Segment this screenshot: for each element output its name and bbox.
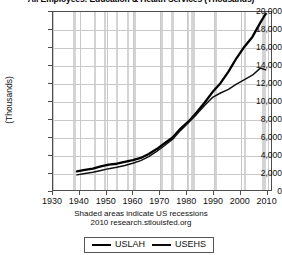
x-tick-mark xyxy=(159,191,160,195)
y-tick-mark xyxy=(48,137,52,138)
y-tick-mark xyxy=(48,29,52,30)
y-tick-label: 10,000 xyxy=(234,97,282,106)
source-note: 2010 research.stlouisfed.org xyxy=(0,218,282,227)
y-tick-mark xyxy=(48,65,52,66)
y-tick-label: 20,000 xyxy=(234,7,282,16)
y-tick-label: 2,000 xyxy=(234,169,282,178)
x-tick-label: 1950 xyxy=(91,196,121,206)
y-tick-label: 6,000 xyxy=(234,133,282,142)
legend-label: USLAH xyxy=(115,240,145,249)
x-tick-label: 1960 xyxy=(117,196,147,206)
x-tick-mark xyxy=(132,191,133,195)
recession-note: Shaded areas indicate US recessions xyxy=(0,209,282,218)
chart-title: All Employees: Education & Health Servic… xyxy=(0,0,282,4)
fred-line-chart: All Employees: Education & Health Servic… xyxy=(0,0,282,255)
y-tick-label: 18,000 xyxy=(234,25,282,34)
x-tick-label: 2010 xyxy=(252,196,282,206)
legend-line-icon xyxy=(92,244,111,246)
x-tick-label: 1940 xyxy=(64,196,94,206)
legend-entry[interactable]: USLAH xyxy=(92,240,145,249)
y-tick-label: 4,000 xyxy=(234,151,282,160)
x-tick-mark xyxy=(240,191,241,195)
x-tick-label: 1980 xyxy=(171,196,201,206)
x-tick-mark xyxy=(52,191,53,195)
x-tick-label: 1990 xyxy=(198,196,228,206)
series-line-uslah xyxy=(77,14,266,172)
y-tick-label: 12,000 xyxy=(234,79,282,88)
x-tick-mark xyxy=(106,191,107,195)
y-tick-mark xyxy=(48,83,52,84)
y-tick-label: 14,000 xyxy=(234,61,282,70)
y-tick-label: 16,000 xyxy=(234,43,282,52)
x-tick-mark xyxy=(213,191,214,195)
x-tick-label: 1930 xyxy=(37,196,67,206)
x-tick-label: 1970 xyxy=(144,196,174,206)
y-tick-mark xyxy=(48,11,52,12)
legend-label: USEHS xyxy=(175,240,206,249)
x-tick-mark xyxy=(267,191,268,195)
y-tick-label: 0 xyxy=(234,187,282,196)
legend: USLAHUSEHS xyxy=(84,237,214,253)
y-tick-mark xyxy=(48,173,52,174)
y-tick-mark xyxy=(48,47,52,48)
y-tick-mark xyxy=(48,101,52,102)
y-tick-mark xyxy=(48,155,52,156)
legend-entry[interactable]: USEHS xyxy=(152,240,206,249)
x-tick-label: 2000 xyxy=(225,196,255,206)
y-tick-mark xyxy=(48,119,52,120)
x-tick-mark xyxy=(186,191,187,195)
x-tick-mark xyxy=(79,191,80,195)
legend-line-icon xyxy=(152,244,171,246)
y-axis-label: (Thousands) xyxy=(4,63,14,137)
y-tick-label: 8,000 xyxy=(234,115,282,124)
